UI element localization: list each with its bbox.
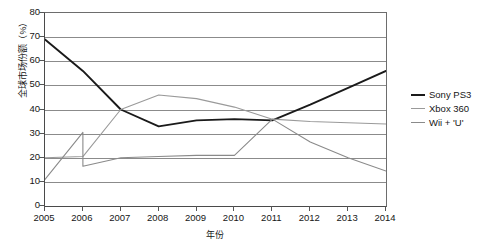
x-tick-mark xyxy=(120,206,121,211)
x-axis-title: 年份 xyxy=(44,230,385,240)
legend-item[interactable]: Wii + 'U' xyxy=(411,116,486,129)
y-tick-label: 0 xyxy=(16,200,40,210)
x-tick-label: 2009 xyxy=(176,213,216,223)
legend-item-label: Wii + 'U' xyxy=(429,118,464,128)
x-tick-label: 2005 xyxy=(24,213,64,223)
y-tick-label: 20 xyxy=(16,152,40,162)
x-tick-mark xyxy=(158,206,159,211)
x-tick-label: 2011 xyxy=(251,213,291,223)
y-tick-label: 70 xyxy=(16,31,40,41)
series-line xyxy=(45,95,386,158)
y-tick-label: 30 xyxy=(16,128,40,138)
y-tick-mark xyxy=(39,205,44,206)
y-tick-label: 80 xyxy=(16,7,40,17)
legend-item-label: Xbox 360 xyxy=(429,104,469,114)
x-tick-label: 2008 xyxy=(138,213,178,223)
plot-area xyxy=(44,12,387,207)
series-line xyxy=(45,40,386,127)
legend-item[interactable]: Xbox 360 xyxy=(411,102,486,115)
y-tick-label: 50 xyxy=(16,79,40,89)
y-tick-mark xyxy=(39,181,44,182)
x-tick-mark xyxy=(196,206,197,211)
x-tick-mark xyxy=(233,206,234,211)
x-tick-label: 2014 xyxy=(365,213,405,223)
y-tick-mark xyxy=(39,109,44,110)
legend-item-label: Sony PS3 xyxy=(429,90,471,100)
chart-legend: Sony PS3Xbox 360Wii + 'U' xyxy=(411,88,486,130)
y-tick-label: 40 xyxy=(16,104,40,114)
y-tick-mark xyxy=(39,36,44,37)
x-tick-mark xyxy=(82,206,83,211)
x-tick-mark xyxy=(385,206,386,211)
y-tick-mark xyxy=(39,60,44,61)
y-tick-mark xyxy=(39,133,44,134)
x-tick-mark xyxy=(271,206,272,211)
y-tick-mark xyxy=(39,157,44,158)
x-tick-label: 2012 xyxy=(289,213,329,223)
y-tick-mark xyxy=(39,84,44,85)
x-tick-label: 2007 xyxy=(100,213,140,223)
legend-line-swatch xyxy=(411,108,425,109)
legend-line-swatch xyxy=(411,94,425,96)
series-lines xyxy=(45,13,386,206)
x-tick-label: 2013 xyxy=(327,213,367,223)
x-tick-mark xyxy=(44,206,45,211)
x-tick-mark xyxy=(309,206,310,211)
x-tick-label: 2010 xyxy=(213,213,253,223)
series-line xyxy=(45,119,386,179)
y-tick-label: 60 xyxy=(16,55,40,65)
legend-line-swatch xyxy=(411,122,425,123)
x-tick-mark xyxy=(347,206,348,211)
line-chart: 全球市场份额（%） 01020304050607080 200520062007… xyxy=(0,0,488,249)
x-tick-label: 2006 xyxy=(62,213,102,223)
y-tick-mark xyxy=(39,12,44,13)
legend-item[interactable]: Sony PS3 xyxy=(411,88,486,101)
y-tick-label: 10 xyxy=(16,176,40,186)
